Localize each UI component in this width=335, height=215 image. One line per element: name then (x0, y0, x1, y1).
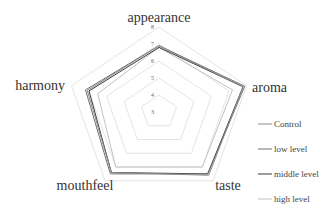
grid-ring-8 (72, 27, 247, 181)
legend-item: high level (258, 194, 310, 204)
tick-label: 3 (151, 109, 154, 115)
tick-label: 6 (151, 58, 154, 64)
radar-chart: 345678 appearancearomatastemouthfeelharm… (0, 0, 335, 215)
legend: Controllow levelmiddle levelhigh level (258, 119, 319, 204)
grid-ring-5 (124, 78, 194, 140)
axis-label-appearance: appearance (128, 10, 191, 25)
tick-label: 5 (151, 75, 154, 81)
legend-item: Control (258, 119, 302, 129)
axis-label-aroma: aroma (252, 80, 288, 95)
radar-grid (72, 27, 247, 181)
axis-label-mouthfeel: mouthfeel (57, 178, 114, 193)
axis-label-harmony: harmony (15, 78, 65, 93)
tick-label: 4 (151, 92, 154, 98)
radar-axis-labels: appearancearomatastemouthfeelharmony (15, 10, 288, 193)
series-middle-level (89, 47, 243, 173)
legend-label: high level (274, 194, 310, 204)
tick-label: 7 (151, 41, 154, 47)
legend-item: middle level (258, 169, 319, 179)
legend-label: middle level (274, 169, 319, 179)
legend-label: low level (274, 144, 308, 154)
legend-item: low level (258, 144, 308, 154)
legend-label: Control (274, 119, 302, 129)
axis-label-taste: taste (215, 178, 241, 193)
radar-tick-labels: 345678 (151, 24, 154, 115)
grid-ring-4 (142, 95, 177, 126)
